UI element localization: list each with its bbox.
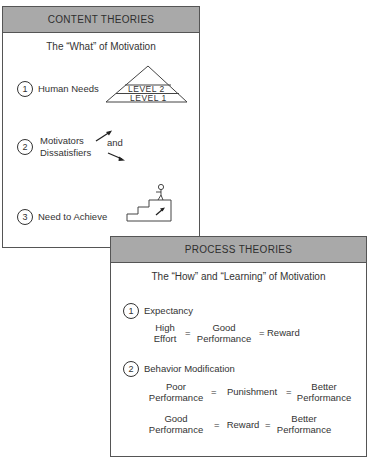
number-badge-2: 2 [17, 139, 33, 155]
content-theories-title: CONTENT THEORIES [48, 14, 155, 25]
process-theories-box: PROCESS THEORIES The “How” and “Learning… [110, 236, 367, 457]
equals-sign: = [286, 386, 292, 397]
human-needs-label: Human Needs [38, 83, 99, 95]
equation-term: Reward [223, 419, 263, 430]
content-theories-box: CONTENT THEORIES The “What” of Motivatio… [2, 6, 200, 248]
equation-term: Better Performance [273, 413, 335, 435]
and-connector: and [107, 137, 123, 149]
expectancy-label: Expectancy [144, 305, 193, 317]
need-to-achieve-label: Need to Achieve [38, 211, 107, 223]
dissatisfiers-label: Dissatisfiers [40, 147, 91, 159]
arrow-down-right-icon [107, 151, 127, 163]
process-theories-subtitle: The “How” and “Learning” of Motivation [111, 271, 366, 282]
motivators-label: Motivators [40, 135, 84, 147]
equation-term: Good Performance [145, 413, 207, 435]
equation-term: Better Performance [293, 381, 355, 403]
equation-term: Punishment [221, 386, 283, 397]
number-badge-2: 2 [123, 361, 139, 377]
number-badge-1: 1 [123, 303, 139, 319]
equals-sign: = [265, 419, 271, 430]
equals-sign: = [211, 386, 217, 397]
process-theories-title: PROCESS THEORIES [185, 244, 292, 255]
process-theories-header: PROCESS THEORIES [111, 237, 366, 263]
pyramid-level-1: LEVEL 1 [130, 94, 167, 103]
equals-sign: = [259, 327, 265, 338]
equation-term: Good Performance [193, 322, 255, 344]
number-badge-1: 1 [17, 81, 33, 97]
equation-term: Poor Performance [145, 381, 207, 403]
content-theories-subtitle: The “What” of Motivation [3, 41, 199, 52]
equation-term: High Effort [147, 322, 183, 344]
behavior-modification-label: Behavior Modification [144, 363, 235, 375]
stairs-climber-icon [125, 183, 175, 223]
equals-sign: = [214, 419, 220, 430]
equals-sign: = [185, 327, 191, 338]
content-theories-header: CONTENT THEORIES [3, 7, 199, 33]
number-badge-3: 3 [17, 209, 33, 225]
equation-term: Reward [267, 327, 307, 338]
